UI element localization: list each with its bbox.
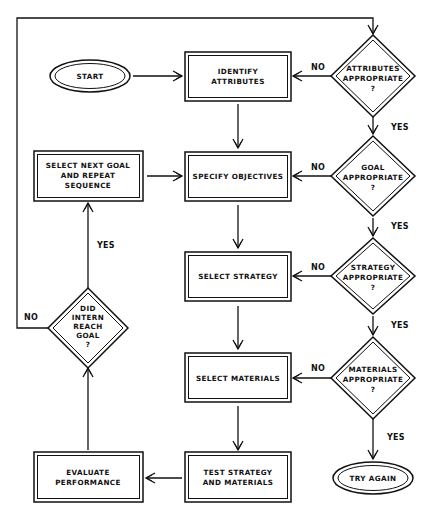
test-strategy-box [185,452,291,502]
strategy-no-label: NO [311,263,325,272]
materials-q-label-3: ? [371,385,376,394]
strategy-q-label-1: STRATEGY [351,263,396,272]
strategy-q-label-2: APPROPRIATE [343,273,403,282]
identify-label-2: ATTRIBUTES [211,77,265,86]
next-goal-label-3: SEQUENCE [65,181,111,190]
evaluate-label-2: PERFORMANCE [55,478,121,487]
start-label: START [76,72,103,81]
goal-q-label-3: ? [371,183,376,192]
goal-no-label: NO [311,163,325,172]
next-goal-label-2: AND REPEAT [61,171,116,180]
test-label-1: TEST STRATEGY [204,468,273,477]
attributes-q-label-2: APPROPRIATE [343,74,403,83]
goal-q-label-1: GOAL [361,163,385,172]
specify-label: SPECIFY OBJECTIVES [193,172,284,181]
node-labels: START IDENTIFY ATTRIBUTES ATTRIBUTES APP… [46,64,403,487]
try-again-label: TRY AGAIN [349,474,396,483]
intern-q-label-4: GOAL [76,331,100,340]
attributes-yes-label: YES [390,123,409,132]
intern-q-label-3: REACH [73,322,102,331]
strategy-yes-label: YES [390,321,409,330]
intern-q-label-2: INTERN [72,313,104,322]
test-label-2: AND MATERIALS [203,478,274,487]
intern-q-label-5: ? [86,340,91,349]
strategy-label: SELECT STRATEGY [198,272,278,281]
goal-yes-label: YES [390,222,409,231]
intern-yes-label: YES [96,241,115,250]
strategy-q-label-3: ? [371,283,376,292]
flowchart-canvas: START IDENTIFY ATTRIBUTES ATTRIBUTES APP… [0,0,430,514]
attributes-no-label: NO [311,63,325,72]
materials-q-label-2: APPROPRIATE [343,375,403,384]
materials-q-label-1: MATERIALS [348,365,397,374]
materials-yes-label: YES [386,433,405,442]
goal-q-label-2: APPROPRIATE [343,173,403,182]
materials-no-label: NO [311,364,325,373]
identify-label-1: IDENTIFY [218,67,259,76]
intern-q-label-1: DID [80,304,96,313]
intern-no-label: NO [24,313,38,322]
attributes-q-label-3: ? [371,84,376,93]
evaluate-label-1: EVALUATE [66,468,110,477]
next-goal-label-1: SELECT NEXT GOAL [46,161,131,170]
materials-label: SELECT MATERIALS [196,374,280,383]
attributes-q-label-1: ATTRIBUTES [346,64,400,73]
evaluate-performance-box [34,452,143,502]
